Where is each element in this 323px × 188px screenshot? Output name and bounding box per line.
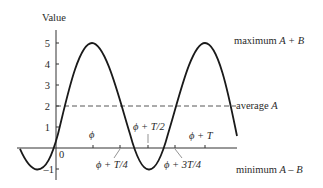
y-tick-3: 3 <box>45 80 50 91</box>
max-expr: A + B <box>278 35 305 46</box>
y-tick-1: 1 <box>45 122 50 133</box>
y-tick-neg1: –1 <box>43 164 55 175</box>
max-annotation: maximum A + B <box>234 35 305 46</box>
origin-label: 0 <box>59 149 64 160</box>
average-annotation: average A <box>236 100 278 111</box>
min-expr: A – B <box>278 164 303 175</box>
x-label-phi-T: ϕ + T <box>189 130 214 141</box>
x-label-phi: ϕ <box>89 129 95 140</box>
y-tick-5: 5 <box>45 38 50 49</box>
avg-prefix: average <box>236 100 271 111</box>
y-tick-2: 2 <box>45 101 50 112</box>
avg-expr: A <box>270 100 278 111</box>
min-prefix: minimum <box>236 164 279 175</box>
y-tick-4: 4 <box>45 59 51 70</box>
min-annotation: minimum A – B <box>236 164 303 175</box>
max-prefix: maximum <box>234 35 279 46</box>
x-label-phi-T2: ϕ + T/2 <box>133 121 166 132</box>
sinusoid-chart: Value 5 4 3 2 1 –1 0 ϕ ϕ + T/4 ϕ + T/2 ϕ… <box>0 0 323 188</box>
y-axis-title: Value <box>42 12 66 23</box>
x-label-phi-3T4: ϕ + 3T/4 <box>164 159 202 170</box>
x-label-phi-T4: ϕ + T/4 <box>96 159 129 170</box>
